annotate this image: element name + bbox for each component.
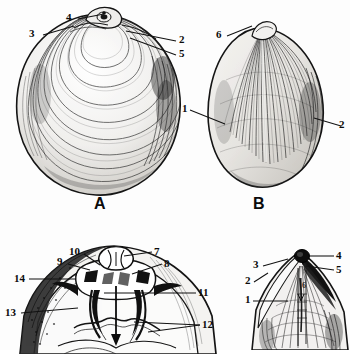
leader-d-2 [254,273,268,282]
leader-d-5 [306,266,334,270]
callout-d-6: 6 [302,282,306,290]
callout-d-4: 4 [336,250,342,261]
callout-d-5: 5 [336,264,342,275]
callout-b-1: 1 [182,103,188,114]
leader-b-1 [190,110,225,124]
leader-b-2 [314,118,341,126]
leader-d-3 [263,259,288,266]
callout-b-6: 6 [216,29,222,40]
figure-b-leaders [0,0,350,210]
callout-d-1: 1 [245,294,251,305]
figure-caption-b: B [253,196,265,212]
figure-d-leaders [0,240,350,350]
callout-d-2: 2 [245,275,251,286]
callout-b-2: 2 [339,119,345,130]
leader-b-6 [227,26,252,36]
callout-d-3: 3 [253,259,259,270]
